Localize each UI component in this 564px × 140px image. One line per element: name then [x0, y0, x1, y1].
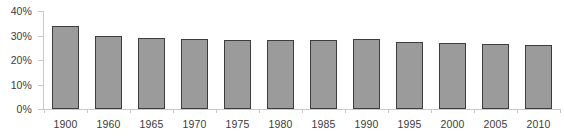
x-axis-tick-mark [130, 109, 131, 113]
y-axis: 0%10%20%30%40% [0, 0, 36, 140]
bar-chart: 0%10%20%30%40% 1900196019651970197519801… [0, 0, 564, 140]
x-axis-tick-label: 1985 [312, 118, 336, 130]
x-axis-tick-label: 2000 [441, 118, 465, 130]
bar [353, 39, 380, 109]
x-axis-tick-mark [517, 109, 518, 113]
bar-group [482, 11, 509, 109]
x-axis-tick-label: 2005 [484, 118, 508, 130]
bar [138, 38, 165, 109]
x-axis-tick-mark [388, 109, 389, 113]
bar [267, 40, 294, 109]
bar-group [439, 11, 466, 109]
y-axis-tick-label: 0% [17, 103, 32, 115]
bar-group [224, 11, 251, 109]
x-axis-tick-mark [560, 109, 561, 113]
x-axis-tick-mark [173, 109, 174, 113]
bar-group [267, 11, 294, 109]
x-axis-tick-label: 1980 [269, 118, 293, 130]
x-axis-tick-mark [87, 109, 88, 113]
x-axis-tick-label: 1970 [183, 118, 207, 130]
y-axis-tick-mark [38, 60, 43, 61]
bar [310, 40, 337, 109]
y-axis-tick-mark [38, 11, 43, 12]
bar [525, 45, 552, 109]
x-axis-tick-mark [474, 109, 475, 113]
x-axis-tick-label: 1995 [398, 118, 422, 130]
bar [95, 36, 122, 110]
y-axis-tick-mark [38, 36, 43, 37]
bar-group [310, 11, 337, 109]
x-axis-tick-label: 1900 [54, 118, 78, 130]
y-axis-tick-label: 30% [11, 30, 32, 42]
x-axis-tick-label: 1965 [140, 118, 164, 130]
x-axis-tick-label: 1975 [226, 118, 250, 130]
plot-area [44, 11, 560, 109]
bar-group [52, 11, 79, 109]
x-axis-tick-label: 1990 [355, 118, 379, 130]
x-axis-tick-mark [345, 109, 346, 113]
bar [181, 39, 208, 109]
bar [224, 40, 251, 109]
bar [52, 26, 79, 109]
x-axis-tick-mark [302, 109, 303, 113]
bar-group [525, 11, 552, 109]
bar [482, 44, 509, 109]
bar-group [138, 11, 165, 109]
bar-group [95, 11, 122, 109]
y-axis-tick-label: 40% [11, 5, 32, 17]
x-axis-tick-mark [216, 109, 217, 113]
bar [396, 42, 423, 109]
x-axis-tick-mark [44, 109, 45, 113]
x-axis-tick-mark [431, 109, 432, 113]
y-axis-tick-mark [38, 85, 43, 86]
x-axis-tick-label: 1960 [97, 118, 121, 130]
x-axis-tick-mark [259, 109, 260, 113]
y-axis-tick-label: 10% [11, 79, 32, 91]
y-axis-tick-label: 20% [11, 54, 32, 66]
bar [439, 43, 466, 109]
bar-group [396, 11, 423, 109]
bar-group [181, 11, 208, 109]
x-axis-tick-label: 2010 [527, 118, 551, 130]
bar-group [353, 11, 380, 109]
y-axis-tick-mark [38, 109, 43, 110]
